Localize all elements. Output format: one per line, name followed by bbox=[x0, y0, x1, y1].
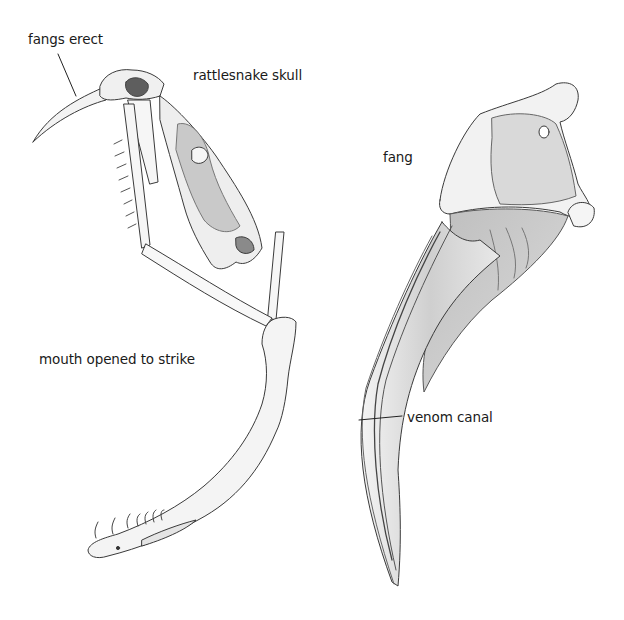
anatomy-figure: fangs erect rattlesnake skull mouth open… bbox=[0, 0, 624, 620]
label-venom-canal: venom canal bbox=[407, 409, 493, 425]
fang-articular-knob bbox=[568, 202, 594, 226]
label-mouth-opened: mouth opened to strike bbox=[39, 351, 195, 367]
orbit bbox=[192, 147, 208, 163]
mandible-pore bbox=[116, 546, 119, 549]
maxilla-hollow bbox=[491, 114, 576, 205]
maxilla-fossa bbox=[125, 78, 148, 97]
label-fangs-erect: fangs erect bbox=[28, 31, 103, 47]
label-rattlesnake-skull: rattlesnake skull bbox=[193, 67, 302, 83]
maxilla-foramen bbox=[539, 126, 549, 138]
quadrate-bone bbox=[268, 232, 284, 320]
label-fang: fang bbox=[383, 149, 413, 165]
fangs-erect-leader-line bbox=[58, 54, 76, 96]
illustration-canvas bbox=[0, 0, 624, 620]
skull-illustration bbox=[33, 54, 296, 558]
erect-fang bbox=[33, 88, 106, 142]
